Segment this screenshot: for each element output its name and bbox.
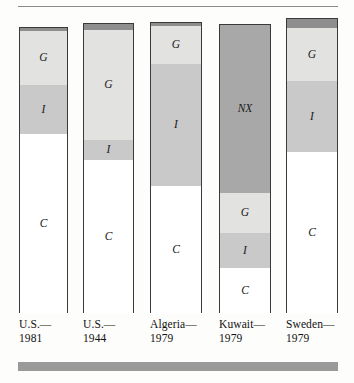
x-label-line2: 1979 <box>219 331 285 345</box>
segment-label: I <box>243 245 247 257</box>
segment-c: C <box>20 134 67 314</box>
segment-c: C <box>287 152 337 314</box>
segment-label: C <box>172 244 180 256</box>
x-label-line1: U.S.— <box>83 318 115 330</box>
segment-i: I <box>287 81 337 152</box>
segment-label: NX <box>238 103 253 115</box>
segment-label: G <box>308 49 316 61</box>
segment-label: G <box>172 39 180 51</box>
segment-label: G <box>241 207 249 219</box>
x-label-line1: Sweden— <box>286 318 335 330</box>
bar-u-s-1981: GIC <box>19 27 68 313</box>
x-label-u-s-1944: U.S.—1944 <box>83 317 148 346</box>
segment-label: C <box>308 227 316 239</box>
segment-label: C <box>40 218 48 230</box>
segment-label: I <box>107 144 111 156</box>
segment-label: I <box>174 119 178 131</box>
segment-c: C <box>84 160 133 314</box>
segment-nx <box>287 19 337 28</box>
segment-g: G <box>151 26 201 64</box>
segment-label: G <box>104 79 112 91</box>
x-label-line1: Algeria— <box>150 318 197 330</box>
bar-sweden-1979: GIC <box>286 18 338 313</box>
segment-g: G <box>287 28 337 81</box>
x-label-line1: Kuwait— <box>219 318 265 330</box>
x-label-line2: 1979 <box>286 331 352 345</box>
bottom-accent-bar <box>18 362 338 371</box>
segment-i: I <box>84 140 133 160</box>
x-label-kuwait-1979: Kuwait—1979 <box>219 317 285 346</box>
top-rule-divider <box>18 6 338 7</box>
segment-label: C <box>105 231 113 243</box>
segment-label: C <box>241 285 249 297</box>
segment-i: I <box>220 233 270 268</box>
x-label-u-s-1981: U.S.—1981 <box>19 317 82 346</box>
x-label-sweden-1979: Sweden—1979 <box>286 317 352 346</box>
segment-nx: NX <box>220 25 270 193</box>
segment-c: C <box>151 186 201 314</box>
bar-algeria-1979: GIC <box>150 22 202 313</box>
segment-label: I <box>42 104 46 116</box>
x-label-line2: 1944 <box>83 331 148 345</box>
segment-label: I <box>310 111 314 123</box>
segment-i: I <box>151 64 201 186</box>
x-label-line2: 1979 <box>150 331 216 345</box>
segment-i: I <box>20 85 67 134</box>
segment-label: G <box>39 52 47 64</box>
x-label-line2: 1981 <box>19 331 82 345</box>
x-label-line1: U.S.— <box>19 318 51 330</box>
segment-c: C <box>220 268 270 314</box>
segment-g: G <box>84 30 133 140</box>
stacked-bar-chart: GICGICGICNXGICGIC U.S.—1981U.S.—1944Alge… <box>0 0 354 383</box>
segment-g: G <box>220 193 270 233</box>
bar-u-s-1944: GIC <box>83 23 134 313</box>
bar-kuwait-1979: NXGIC <box>219 24 271 313</box>
x-label-algeria-1979: Algeria—1979 <box>150 317 216 346</box>
segment-g: G <box>20 31 67 85</box>
